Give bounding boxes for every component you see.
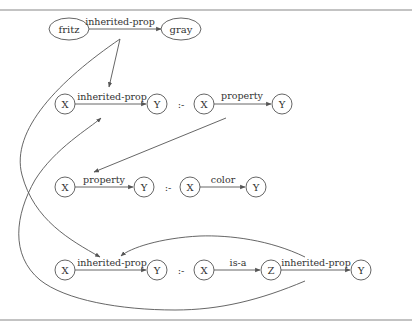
diagram-canvas: fritz inherited-prop gray X inherited-pr…: [0, 0, 412, 331]
rule1-head-edge-label: inherited-prop: [77, 91, 147, 102]
rule3-head-x-label: X: [61, 265, 69, 276]
rule3-neck: :-: [178, 265, 185, 276]
rule1-neck: :-: [178, 99, 185, 110]
rule3-body-edge-1-label: is-a: [230, 257, 247, 268]
rule2-head-x-label: X: [61, 182, 69, 193]
rule-1: X inherited-prop Y :- X property Y: [55, 90, 292, 114]
rule3-body-x-label: X: [200, 265, 208, 276]
node-gray-label: gray: [170, 24, 193, 35]
rule-2: X property Y :- X color Y: [55, 174, 266, 197]
rule1-body-x-label: X: [200, 99, 208, 110]
arrow-rule3-body-to-rule3-head: [121, 236, 305, 257]
node-fritz-label: fritz: [59, 24, 80, 35]
rule3-body-z-label: Z: [268, 265, 275, 276]
rule2-body-y-label: Y: [252, 182, 260, 193]
rule-3: X inherited-prop Y :- X is-a Z inherited…: [55, 257, 371, 280]
arrow-rule1-body-to-rule2-head: [94, 118, 226, 172]
rule2-body-x-label: X: [186, 182, 194, 193]
rule2-neck: :-: [165, 182, 172, 193]
rule2-body-edge-label: color: [211, 174, 236, 185]
rule3-head-edge-label: inherited-prop: [77, 257, 147, 268]
rule2-head-y-label: Y: [140, 182, 148, 193]
rule1-body-edge-label: property: [221, 90, 263, 101]
fact-group: fritz inherited-prop gray: [49, 16, 201, 40]
arrow-rule3-body-to-rule1-head: [19, 118, 305, 310]
arrow-fact-to-rule3-head: [20, 39, 120, 257]
edge-fact-label: inherited-prop: [85, 16, 155, 27]
rule3-head-y-label: Y: [153, 265, 161, 276]
arrow-fact-to-rule1-head: [109, 39, 120, 87]
rule3-body-y-label: Y: [357, 265, 365, 276]
rule2-head-edge-label: property: [83, 174, 125, 185]
rule3-body-edge-2-label: inherited-prop: [281, 257, 351, 268]
rule1-body-y-label: Y: [278, 99, 286, 110]
rule1-head-x-label: X: [61, 99, 69, 110]
rule1-head-y-label: Y: [153, 99, 161, 110]
